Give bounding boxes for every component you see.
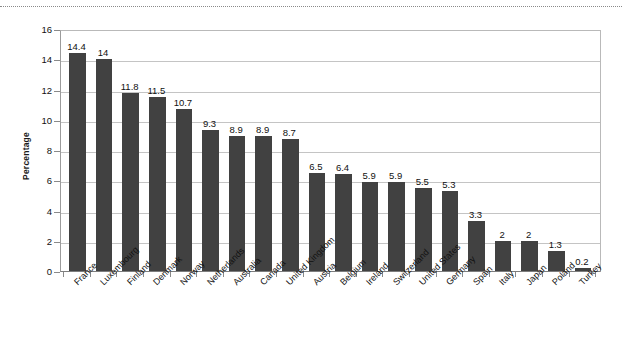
y-tick-mark — [54, 272, 60, 273]
bar-value-label: 2 — [509, 230, 549, 240]
gridline — [61, 213, 600, 214]
y-axis-title-text: Percentage — [21, 132, 31, 180]
bar-chart-figure: Percentage 0246810121416 14.41411.811.51… — [0, 0, 622, 348]
y-tick-label: 6 — [6, 176, 52, 186]
bar — [388, 182, 405, 271]
bar-value-label: 3.3 — [456, 210, 496, 220]
bar — [282, 139, 299, 271]
gridline — [61, 182, 600, 183]
bar — [149, 97, 166, 271]
bar-value-label: 14 — [83, 48, 123, 58]
bar-value-label: 8.7 — [269, 128, 309, 138]
bar — [362, 182, 379, 271]
y-tick-label: 12 — [6, 86, 52, 96]
bar — [176, 109, 193, 271]
bar-value-label: 11.5 — [136, 86, 176, 96]
y-tick-label: 4 — [6, 207, 52, 217]
bar — [495, 241, 512, 271]
gridline — [61, 152, 600, 153]
bar — [255, 136, 272, 271]
bar — [202, 130, 219, 271]
y-tick-label: 10 — [6, 116, 52, 126]
bar — [122, 93, 139, 271]
top-dotted-divider — [0, 6, 622, 7]
y-tick-label: 14 — [6, 55, 52, 65]
bar — [335, 174, 352, 271]
y-tick-label: 16 — [6, 25, 52, 35]
y-tick-label: 8 — [6, 146, 52, 156]
gridline — [61, 61, 600, 62]
x-tick-mark — [63, 272, 64, 277]
y-tick-label: 2 — [6, 237, 52, 247]
gridline — [61, 122, 600, 123]
bar-value-label: 10.7 — [163, 98, 203, 108]
bar-value-label: 1.3 — [535, 240, 575, 250]
y-tick-label: 0 — [6, 267, 52, 277]
bar-value-label: 5.3 — [429, 180, 469, 190]
bar — [69, 53, 86, 271]
